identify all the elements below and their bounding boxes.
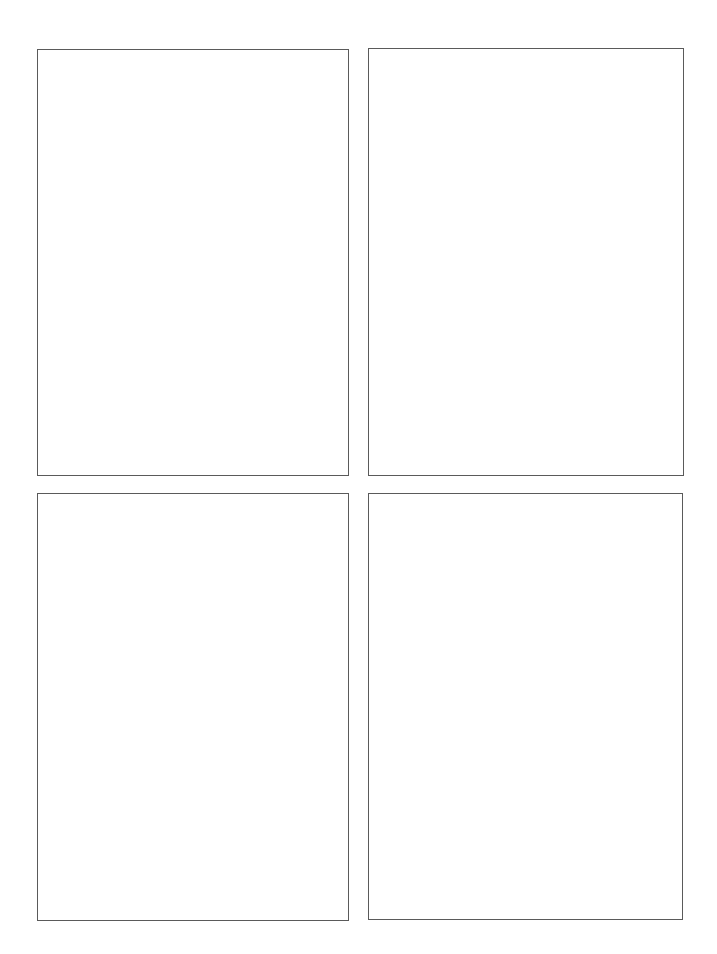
blank-page-canvas (0, 0, 717, 954)
panel-bottom-left (37, 493, 349, 921)
panel-top-right (368, 48, 684, 476)
panel-bottom-right (368, 493, 683, 920)
panel-top-left (37, 49, 349, 476)
